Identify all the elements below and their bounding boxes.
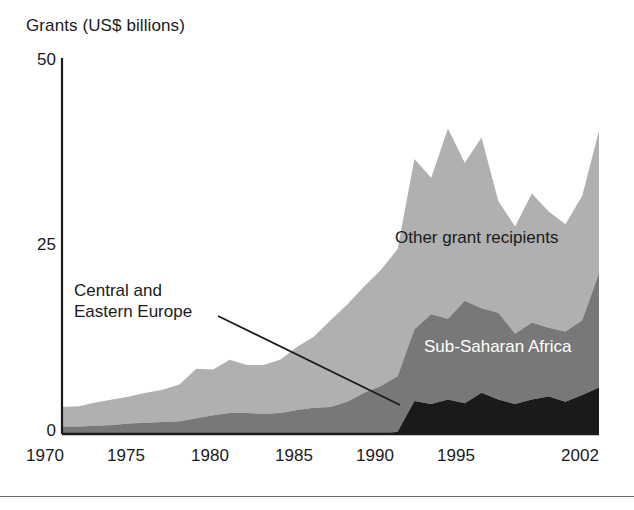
series-label-sub-saharan-africa: Sub-Saharan Africa [424, 337, 571, 358]
series-label-cee-line2: Eastern Europe [74, 302, 192, 321]
series-label-cee-line1: Central and [74, 281, 162, 300]
series-label-other-grant-recipients: Other grant recipients [395, 228, 558, 249]
bottom-rule-divider [0, 496, 634, 497]
stacked-area-plot [0, 0, 634, 510]
series-label-central-eastern-europe: Central and Eastern Europe [74, 281, 192, 322]
chart-figure: Grants (US$ billions) 50 25 0 1970 1975 … [0, 0, 634, 510]
